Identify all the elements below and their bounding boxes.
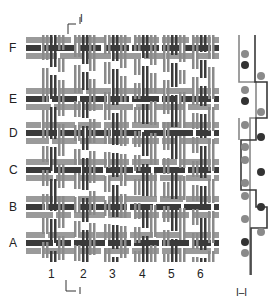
row-label-b: B [9, 201, 17, 213]
row-label-d: D [9, 127, 18, 139]
column-label-5: 5 [168, 268, 175, 280]
weave-grid [0, 0, 276, 303]
column-label-6: 6 [197, 268, 204, 280]
column-label-1: 1 [48, 268, 55, 280]
section-marker-top-icon [68, 17, 80, 34]
weave-diagram: FEDCBA 123456 I I–I [0, 0, 276, 303]
section-label-top: I [80, 14, 83, 24]
row-label-c: C [9, 164, 18, 176]
section-dots [241, 50, 265, 257]
column-label-4: 4 [139, 268, 146, 280]
row-label-a: A [9, 237, 17, 249]
thread-layer [26, 35, 219, 262]
row-label-f: F [9, 42, 16, 54]
column-label-2: 2 [80, 268, 87, 280]
column-label-3: 3 [109, 268, 116, 280]
row-label-e: E [9, 93, 17, 105]
section-label: I–I [236, 288, 247, 298]
section-marker-bottom-icon [66, 280, 80, 294]
